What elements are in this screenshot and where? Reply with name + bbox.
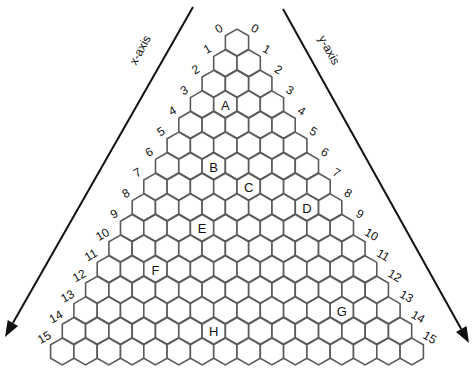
hex-cell [400,338,423,365]
hex-cell [330,338,353,365]
y-row-number: 2 [272,62,285,78]
hex-cell [260,338,283,365]
hex-cell [51,338,74,365]
x-row-number: 4 [166,103,179,119]
hex-cell [354,338,377,365]
y-row-number: 1 [260,41,273,57]
hex-cell [284,338,307,365]
x-row-number: 0 [213,21,226,37]
y-row-number: 8 [342,186,355,202]
y-row-number: 4 [295,103,308,119]
hex-cell [190,338,213,365]
x-row-number: 8 [119,185,132,201]
hex-cell [74,338,97,365]
x-row-number: 7 [131,165,144,181]
marker-b: B [209,160,218,175]
hex-cell [167,338,190,365]
y-row-number: 9 [354,206,367,222]
hex-cell [377,338,400,365]
hex-cell [214,338,237,365]
hex-cell [144,338,167,365]
y-row-number: 6 [319,144,332,160]
y-row-number: 0 [249,21,262,37]
x-row-number: 3 [178,82,191,98]
marker-c: C [244,180,253,195]
y-axis-label: y-axis [315,33,342,67]
hex-cell [307,338,330,365]
y-row-number: 5 [307,124,320,140]
marker-a: A [221,98,230,113]
y-row-number: 7 [330,165,343,181]
x-axis-arrowhead-icon [5,320,18,337]
x-row-number: 9 [108,206,121,222]
x-row-number: 1 [201,41,214,57]
marker-h: H [209,324,218,339]
hex-cell [97,338,120,365]
marker-e: E [198,221,207,236]
hex-cell [121,338,144,365]
x-row-number: 6 [143,144,156,160]
marker-g: G [337,304,347,319]
marker-d: D [302,201,311,216]
hex-grid [51,29,424,365]
y-row-number: 3 [284,83,297,99]
marker-f: F [151,263,159,278]
x-row-number: 2 [189,62,202,78]
x-axis-label: x-axis [126,33,153,67]
hex-triangle-diagram: x-axis y-axis 00112233445566778899101011… [0,0,476,374]
y-axis-arrowhead-icon [456,326,469,343]
x-row-number: 5 [154,124,167,140]
hex-cell [237,338,260,365]
